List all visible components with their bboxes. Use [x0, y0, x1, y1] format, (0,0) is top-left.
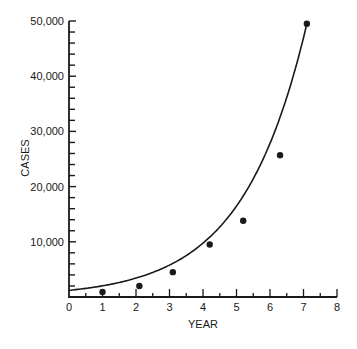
data-point: [136, 283, 142, 289]
data-point: [240, 218, 246, 224]
data-point: [304, 21, 310, 27]
x-tick-label: 4: [200, 301, 206, 313]
x-tick-label: 6: [267, 301, 273, 313]
x-tick-label: 1: [99, 301, 105, 313]
y-tick-label: 40,000: [30, 70, 64, 82]
y-tick-labels: 10,00020,00030,00040,00050,000: [30, 15, 64, 248]
cases-chart: 10,00020,00030,00040,00050,000 012345678…: [0, 0, 357, 349]
y-tick-label: 50,000: [30, 15, 64, 27]
y-axis-title: CASES: [19, 139, 31, 176]
y-tick-label: 10,000: [30, 236, 64, 248]
x-axis-title: YEAR: [188, 318, 218, 330]
data-points: [99, 21, 310, 296]
x-tick-label: 8: [334, 301, 340, 313]
y-tick-label: 20,000: [30, 181, 64, 193]
x-tick-label: 2: [133, 301, 139, 313]
data-point: [277, 152, 283, 158]
x-tick-labels: 012345678: [66, 301, 340, 313]
data-point: [99, 289, 105, 295]
x-tick-label: 7: [300, 301, 306, 313]
data-point: [207, 241, 213, 247]
x-tick-label: 3: [166, 301, 172, 313]
y-axis: [69, 21, 76, 298]
y-tick-label: 30,000: [30, 125, 64, 137]
x-axis: [69, 289, 337, 297]
fit-curve: [69, 24, 307, 291]
x-tick-label: 0: [66, 301, 72, 313]
x-tick-label: 5: [233, 301, 239, 313]
data-point: [170, 269, 176, 275]
